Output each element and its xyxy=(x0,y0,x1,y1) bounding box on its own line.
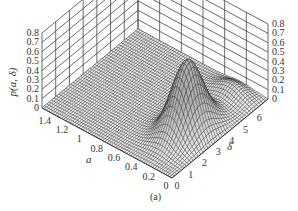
z-tick-right: 0 xyxy=(272,93,277,104)
z-tick-right: 0.3 xyxy=(272,65,285,76)
z-axis-right-ticks: 00.10.20.30.40.50.60.70.8 xyxy=(272,18,285,104)
z-tick-left: 0.2 xyxy=(27,83,40,94)
figure-caption: (a) xyxy=(150,191,161,203)
a-tick: 0.8 xyxy=(90,143,103,154)
a-axis-label: a xyxy=(86,153,92,165)
z-tick-left: 0.7 xyxy=(27,36,40,47)
delta-tick: 5 xyxy=(243,124,248,135)
a-tick: 1 xyxy=(77,133,82,144)
z-tick-left: 0.8 xyxy=(27,27,40,38)
z-tick-right: 0.4 xyxy=(272,56,285,67)
z-tick-right: 0.5 xyxy=(272,46,285,57)
z-tick-right: 0.7 xyxy=(272,27,285,38)
z-tick-left: 0.4 xyxy=(27,65,40,76)
z-tick-right: 0.6 xyxy=(272,37,285,48)
surface-mesh xyxy=(42,29,268,178)
z-tick-left: 0 xyxy=(34,102,39,113)
surface-plot-figure: 00.10.20.30.40.50.60.70.8 00.10.20.30.40… xyxy=(0,0,298,211)
delta-tick: 0 xyxy=(175,180,180,191)
delta-tick: 1 xyxy=(188,169,193,180)
delta-tick: 3 xyxy=(216,146,221,157)
a-tick: 0 xyxy=(164,180,169,191)
z-tick-right: 0.1 xyxy=(272,84,285,95)
delta-tick: 6 xyxy=(257,112,262,123)
a-tick: 0.4 xyxy=(125,161,138,172)
z-axis-label: p(a, δ) xyxy=(6,67,19,97)
z-tick-left: 0.1 xyxy=(27,93,40,104)
a-tick: 1.2 xyxy=(56,124,69,135)
z-axis-left-ticks: 00.10.20.30.40.50.60.70.8 xyxy=(27,27,40,113)
z-tick-right: 0.8 xyxy=(272,18,285,29)
surface-plot: 00.10.20.30.40.50.60.70.8 00.10.20.30.40… xyxy=(0,0,298,211)
a-tick: 1.4 xyxy=(38,115,51,126)
z-tick-left: 0.5 xyxy=(27,55,40,66)
delta-axis-label: δ xyxy=(227,140,233,152)
a-tick: 0.6 xyxy=(108,152,121,163)
z-tick-right: 0.2 xyxy=(272,74,285,85)
z-tick-left: 0.3 xyxy=(27,74,40,85)
z-tick-left: 0.6 xyxy=(27,46,40,57)
delta-tick: 2 xyxy=(202,157,207,168)
a-tick: 0.2 xyxy=(142,171,155,182)
